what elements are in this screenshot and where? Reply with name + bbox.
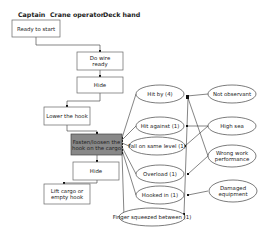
step-lower: Lower the hook [44,107,90,125]
accident-fall: Fall on same level (1) [128,137,186,155]
cause-label: High sea [220,123,244,130]
step-hide1: Hide [77,77,123,93]
accident-overload: Overload (1) [136,165,184,183]
cause-highsea: High sea [208,117,256,135]
accident-label: Fall on same level (1) [128,143,186,149]
step-label: Hide [94,82,107,88]
accident-hitby: Hit by (4) [136,85,184,103]
cause-wrongwork: Wrong workperformance [208,145,256,167]
accident-label: Finger squeezed between (1) [113,214,192,221]
step-ready: Ready to start [12,20,60,37]
step-label: Hide [90,168,103,174]
accident-hitagainst: Hit against (1) [136,117,184,135]
accident-finger: Finger squeezed between (1) [113,208,192,226]
process-steps: Ready to startDo wirereadyHideLower the … [12,20,123,204]
role-header-deck-hand: Deck hand [103,11,140,18]
cause-label: performance [215,156,250,163]
cause-notobs: Not observant [208,85,256,103]
accident-label: Overload (1) [143,171,177,177]
accident-label: Hit against (1) [141,123,180,130]
cause-label: Not observant [213,91,251,97]
hazard-flow-diagram: CaptainCrane operatorDeck hand Ready to … [0,0,274,241]
step-wire: Do wireready [77,52,123,70]
role-headers: CaptainCrane operatorDeck hand [18,11,140,19]
cause-label: equipment [218,191,247,198]
accident-label: Hit by (4) [147,91,172,98]
step-label: Lower the hook [46,113,88,119]
accident-label: Hooked in (1) [142,192,178,198]
cause-damaged: Damagedequipment [209,180,257,202]
step-fasten: Fasten/loosen thehook on the cargo [71,134,122,155]
step-label: Ready to start [17,26,55,33]
accident-causes: Not observantHigh seaWrong workperforman… [208,85,257,202]
role-header-captain: Captain [18,11,45,19]
step-hide2: Hide [73,162,119,180]
step-label: empty hook [51,194,84,201]
step-lift: Lift cargo orempty hook [44,184,90,204]
role-header-crane-operator: Crane operator [50,11,105,19]
accident-hooked: Hooked in (1) [136,186,184,204]
step-label: ready [92,61,108,68]
step-label: hook on the cargo [72,145,121,152]
accident-types: Hit by (4)Hit against (1)Fall on same le… [113,85,192,226]
